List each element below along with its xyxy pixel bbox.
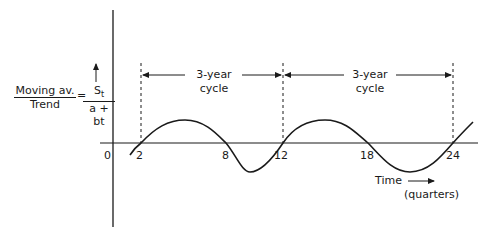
origin-label: 0 (104, 150, 111, 162)
x-axis-label-time: Time (375, 175, 402, 187)
diagram-canvas (0, 0, 488, 238)
cycle-label-2: 3-year cycle (344, 68, 396, 96)
tick-8: 8 (222, 150, 229, 162)
s-symbol: S (94, 84, 101, 97)
cycle-label-line2: cycle (186, 82, 242, 96)
cycle-label-line2: cycle (344, 82, 396, 96)
cycle-curve (130, 120, 473, 172)
tick-2: 2 (136, 150, 143, 162)
st-numerator: St (83, 84, 115, 102)
tick-12: 12 (274, 150, 288, 162)
fraction-denominator: Trend (14, 98, 76, 111)
cycle-label-line1: 3-year (186, 68, 242, 82)
fraction-numerator: Moving av. (14, 84, 76, 98)
tick-18: 18 (360, 150, 374, 162)
trend-denominator: a + bt (83, 102, 115, 128)
tick-24: 24 (446, 150, 460, 162)
cycle-label-line1: 3-year (344, 68, 396, 82)
moving-average-over-trend-fraction: Moving av. Trend (14, 84, 76, 111)
cycle-label-1: 3-year cycle (186, 68, 242, 96)
t-subscript: t (101, 90, 104, 99)
x-axis-label-units: (quarters) (404, 189, 459, 201)
st-over-trend-fraction: St a + bt (83, 84, 115, 128)
